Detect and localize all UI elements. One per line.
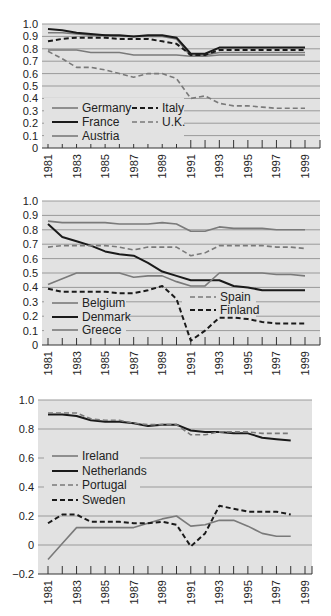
x-tick-label: 1995 [242,580,254,604]
y-tick-label: 0.7 [23,55,38,67]
y-tick-label: 0.3 [23,296,38,308]
y-tick-label: 0.6 [23,253,38,265]
y-tick-label: 0.3 [23,105,38,117]
y-tick-label: 0 [28,539,34,551]
x-tick-label: 1987 [128,351,140,375]
y-tick-label: 0.8 [23,43,38,55]
x-tick-label: 1989 [156,351,168,375]
y-tick-label: −0.2 [12,568,34,580]
x-tick-label: 1993 [213,154,225,178]
x-tick-label: 1981 [42,580,54,604]
x-tick-label: 1995 [242,154,254,178]
x-tick-label: 1981 [42,351,54,375]
y-tick-label: 0.5 [23,80,38,92]
y-tick-label: 0.2 [23,117,38,129]
x-tick-label: 1997 [270,580,282,604]
legend-label: Greece [82,323,122,337]
chart-panel-1: 00.10.20.30.40.50.60.70.80.91.0198119831… [0,0,331,195]
y-tick-label: 0.6 [19,452,34,464]
x-tick-label: 1985 [99,580,111,604]
x-tick-label: 1993 [213,351,225,375]
x-tick-label: 1987 [128,154,140,178]
x-tick-label: 1985 [99,351,111,375]
x-tick-label: 1989 [156,154,168,178]
line-chart-1: 00.10.20.30.40.50.60.70.80.91.0198119831… [0,0,331,195]
legend-label: Sweden [82,493,125,507]
legend-label: Netherlands [82,464,147,478]
y-tick-label: 1.0 [23,18,38,30]
x-tick-label: 1999 [299,580,311,604]
x-tick-label: 1985 [99,154,111,178]
x-tick-label: 1991 [185,154,197,178]
y-tick-label: 0 [32,339,38,351]
y-tick-label: 0.2 [23,310,38,322]
legend-label: Belgium [82,296,125,310]
x-tick-label: 1999 [299,351,311,375]
x-tick-label: 1983 [71,154,83,178]
y-tick-label: 0.4 [23,92,38,104]
y-tick-label: 0.6 [23,68,38,80]
legend-label: U.K. [162,115,185,129]
y-tick-label: 0.9 [23,30,38,42]
x-tick-label: 1991 [185,580,197,604]
x-tick-label: 1989 [156,580,168,604]
y-tick-label: 0.8 [19,423,34,435]
y-tick-label: 0.4 [19,481,34,493]
y-tick-label: 0.5 [23,267,38,279]
x-tick-label: 1997 [270,154,282,178]
legend-label: Italy [162,101,184,115]
y-tick-label: 0.1 [23,325,38,337]
legend-label: Portugal [82,478,127,492]
x-tick-label: 1999 [299,154,311,178]
y-tick-label: 0 [32,142,38,154]
legend-label: Denmark [82,310,132,324]
legend-label: Germany [82,101,131,115]
legend-label: Austria [82,129,120,143]
x-tick-label: 1983 [71,351,83,375]
x-tick-label: 1993 [213,580,225,604]
x-tick-label: 1997 [270,351,282,375]
chart-panel-3: −0.200.20.40.60.81.019811983198519871989… [0,390,331,616]
y-tick-label: 0.8 [23,224,38,236]
x-tick-label: 1983 [71,580,83,604]
legend-label: Finland [220,303,259,317]
y-tick-label: 1.0 [23,195,38,207]
line-chart-2: 00.10.20.30.40.50.60.70.80.91.0198119831… [0,195,331,390]
legend-label: Spain [220,290,251,304]
y-tick-label: 0.1 [23,130,38,142]
line-chart-3: −0.200.20.40.60.81.019811983198519871989… [0,390,331,616]
x-tick-label: 1981 [42,154,54,178]
chart-panel-2: 00.10.20.30.40.50.60.70.80.91.0198119831… [0,195,331,390]
x-tick-label: 1995 [242,351,254,375]
y-tick-label: 0.2 [19,510,34,522]
y-tick-label: 0.4 [23,281,38,293]
x-tick-label: 1991 [185,351,197,375]
x-tick-label: 1987 [128,580,140,604]
y-tick-label: 0.9 [23,209,38,221]
legend-label: France [82,115,120,129]
y-tick-label: 0.7 [23,238,38,250]
y-tick-label: 1.0 [19,394,34,406]
legend-label: Ireland [82,449,119,463]
